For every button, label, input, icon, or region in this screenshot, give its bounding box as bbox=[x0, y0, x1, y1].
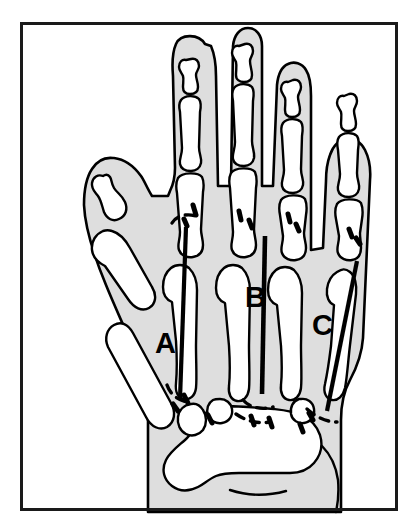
hand-skeleton-figure: A B C bbox=[0, 0, 415, 529]
epiphyseal-mark-5 bbox=[288, 214, 290, 222]
bone-middle-distal-phalanx bbox=[232, 44, 253, 82]
epiphyseal-mark-1 bbox=[193, 205, 196, 215]
bone-carpal-trapezium bbox=[178, 404, 206, 436]
bone-ring-distal-phalanx bbox=[281, 80, 301, 117]
measurement-line-b bbox=[262, 236, 265, 394]
epiphyseal-mark-14 bbox=[300, 424, 303, 432]
bone-index-middle-phalanx bbox=[179, 96, 201, 171]
bone-ring-middle-phalanx bbox=[281, 119, 303, 193]
epiphyseal-mark-3 bbox=[239, 211, 241, 220]
epiphyseal-mark-8 bbox=[356, 238, 360, 244]
figure-root: A B C bbox=[0, 0, 415, 529]
epiphyseal-mark-7 bbox=[349, 229, 352, 237]
bone-index-distal-phalanx bbox=[179, 59, 199, 94]
hand-diagram-svg: A B C bbox=[0, 0, 415, 529]
epiphyseal-mark-2 bbox=[184, 219, 187, 226]
bone-middle-proximal-phalanx bbox=[229, 168, 256, 257]
bone-middle-middle-phalanx bbox=[232, 84, 254, 166]
label-a: A bbox=[155, 327, 176, 359]
bone-ring-proximal-phalanx bbox=[279, 195, 306, 260]
bone-little-middle-phalanx bbox=[337, 133, 359, 197]
label-b: B bbox=[245, 281, 266, 313]
epiphyseal-mark-6 bbox=[296, 224, 299, 231]
label-c: C bbox=[312, 309, 333, 341]
bone-little-distal-phalanx bbox=[337, 94, 357, 131]
epiphyseal-mark-4 bbox=[249, 220, 252, 228]
